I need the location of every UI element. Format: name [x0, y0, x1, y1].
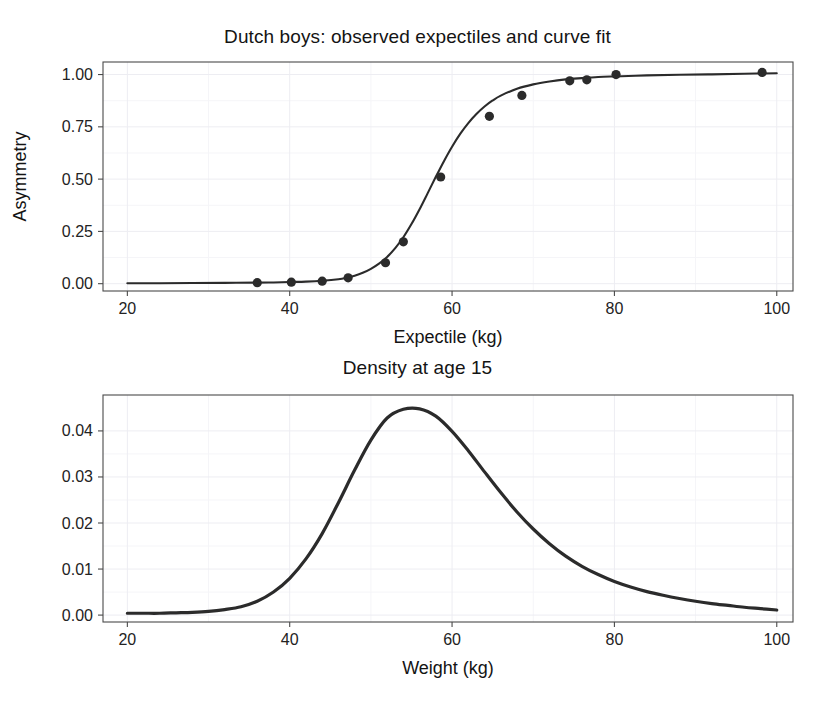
plot-area-density: 204060801000.000.010.020.030.04Weight (k… [0, 350, 835, 707]
x-tick-label: 40 [281, 631, 299, 648]
chart-panel-density: Density at age 15 204060801000.000.010.0… [0, 350, 835, 707]
x-tick-label: 20 [118, 300, 136, 317]
y-tick-label: 0.03 [62, 468, 93, 485]
x-axis-title: Weight (kg) [402, 658, 494, 678]
y-tick-label: 0.04 [62, 422, 93, 439]
data-point-marker [485, 112, 494, 121]
x-tick-label: 100 [763, 300, 790, 317]
x-tick-label: 20 [118, 631, 136, 648]
plot-area-expectile: 204060801000.000.250.500.751.00Expectile… [0, 0, 835, 350]
x-tick-label: 60 [443, 300, 461, 317]
y-tick-label: 0.25 [62, 223, 93, 240]
data-point-marker [611, 70, 620, 79]
x-tick-label: 100 [763, 631, 790, 648]
y-tick-label: 0.75 [62, 118, 93, 135]
y-tick-label: 0.01 [62, 561, 93, 578]
y-tick-label: 0.00 [62, 275, 93, 292]
x-tick-label: 60 [443, 631, 461, 648]
y-tick-label: 0.00 [62, 607, 93, 624]
data-point-marker [565, 76, 574, 85]
plot-frame [103, 62, 793, 291]
figure-canvas: Dutch boys: observed expectiles and curv… [0, 0, 835, 707]
data-point-marker [517, 91, 526, 100]
x-tick-label: 80 [606, 631, 624, 648]
chart-panel-expectile: Dutch boys: observed expectiles and curv… [0, 0, 835, 350]
x-axis-title: Expectile (kg) [393, 327, 502, 347]
y-tick-label: 0.02 [62, 515, 93, 532]
y-axis-title: Asymmetry [10, 132, 30, 222]
x-tick-label: 80 [606, 300, 624, 317]
y-tick-label: 1.00 [62, 66, 93, 83]
x-tick-label: 40 [281, 300, 299, 317]
y-tick-label: 0.50 [62, 171, 93, 188]
